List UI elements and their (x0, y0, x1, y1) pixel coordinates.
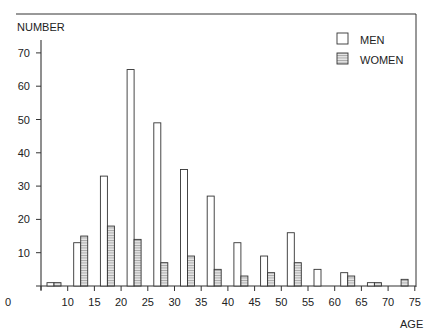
bar-men-45-49 (261, 256, 268, 286)
bar-men-15-19 (100, 176, 107, 286)
x-axis-title: AGE (400, 318, 423, 330)
bar-men-30-34 (181, 169, 188, 286)
legend-swatch-women (337, 53, 348, 64)
bar-men-5-9 (47, 283, 54, 286)
x-tick-label: 15 (88, 296, 100, 308)
bar-men-20-24 (127, 70, 134, 286)
x-tick-label: 70 (382, 296, 394, 308)
x-tick-label: 0 (5, 296, 11, 308)
bar-women-30-34 (188, 256, 195, 286)
bar-women-10-14 (81, 236, 88, 286)
bar-women-15-19 (107, 226, 114, 286)
bar-men-65-69 (367, 283, 374, 286)
bar-men-55-59 (314, 269, 321, 286)
x-tick-label: 75 (409, 296, 421, 308)
legend-swatch-men (337, 33, 348, 44)
y-axis-ticks: 10203040506070 (18, 47, 41, 259)
x-tick-label: 55 (302, 296, 314, 308)
legend-label-women: WOMEN (360, 54, 403, 66)
bars (47, 70, 408, 286)
y-tick-label: 30 (18, 180, 30, 192)
legend-label-men: MEN (360, 34, 385, 46)
y-tick-label: 60 (18, 80, 30, 92)
x-tick-label: 30 (168, 296, 180, 308)
bar-women-40-44 (241, 276, 248, 286)
y-tick-label: 10 (18, 247, 30, 259)
bar-women-35-39 (214, 269, 221, 286)
x-tick-label: 25 (142, 296, 154, 308)
bar-men-40-44 (234, 243, 241, 286)
bar-men-35-39 (207, 196, 214, 286)
x-tick-label: 45 (248, 296, 260, 308)
bar-men-50-54 (287, 233, 294, 286)
x-tick-label: 35 (195, 296, 207, 308)
bar-men-25-29 (154, 123, 161, 286)
y-tick-label: 50 (18, 114, 30, 126)
bar-women-60-64 (348, 276, 355, 286)
bar-women-50-54 (294, 263, 301, 286)
x-tick-label: 10 (62, 296, 74, 308)
y-tick-label: 40 (18, 147, 30, 159)
bar-women-25-29 (161, 263, 168, 286)
bar-men-60-64 (341, 273, 348, 286)
legend: MEN WOMEN (337, 33, 403, 66)
y-tick-label: 20 (18, 213, 30, 225)
bar-women-65-69 (374, 283, 381, 286)
bar-women-5-9 (54, 283, 61, 286)
bar-men-10-14 (74, 243, 81, 286)
bar-women-45-49 (268, 273, 275, 286)
y-axis-title: NUMBER (17, 21, 65, 33)
bar-chart: 10203040506070 0101520253035404550556065… (0, 0, 433, 336)
bar-women-70-74 (401, 279, 408, 286)
x-tick-label: 40 (222, 296, 234, 308)
x-tick-label: 50 (275, 296, 287, 308)
x-tick-label: 60 (329, 296, 341, 308)
y-tick-label: 70 (18, 47, 30, 59)
x-tick-label: 65 (355, 296, 367, 308)
x-tick-label: 20 (115, 296, 127, 308)
x-axis-ticks: 01015202530354045505560657075 (5, 286, 421, 308)
bar-women-20-24 (134, 239, 141, 286)
